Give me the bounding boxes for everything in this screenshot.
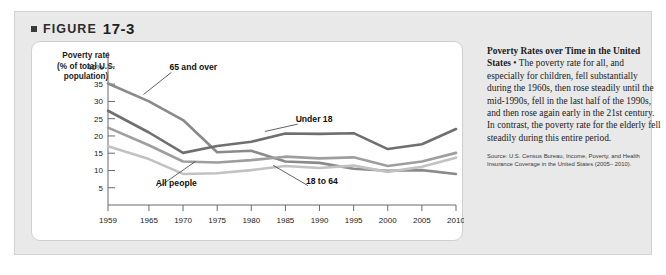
series-leader-18-to-64 [273,165,308,185]
x-tick-label: 1980 [242,216,260,225]
x-tick-label: 1985 [277,216,295,225]
x-tick-label: 2000 [379,216,397,225]
x-tick-label: 1970 [174,216,192,225]
series-label-65-and-over: 65 and over [169,62,217,72]
x-tick-label: 2005 [413,216,431,225]
y-tick-label: 15 [94,149,103,158]
series-label-all-people: All people [156,178,197,188]
figure-container: FIGURE 17-3 Poverty rate (% of total U.S… [14,11,652,255]
caption-body: The poverty rate for all, and especially… [487,58,661,142]
x-tick-label: 1995 [345,216,363,225]
square-bullet-icon [31,26,37,32]
series-label-under-18: Under 18 [296,114,333,124]
figure-label: FIGURE [43,22,97,36]
caption-panel: Poverty Rates over Time in the United St… [487,45,663,168]
caption-separator: • [511,58,519,68]
series-line-under-18 [108,111,456,153]
x-tick-label: 1965 [140,216,158,225]
y-tick-label: 5 [99,184,104,193]
caption-text: Poverty Rates over Time in the United St… [487,45,663,144]
chart-card: Poverty rate (% of total U.S. population… [31,41,463,241]
figure-number: 17-3 [103,20,135,37]
y-tick-label: 10 [94,166,103,175]
x-tick-label: 1990 [311,216,329,225]
caption-source: Source: U.S. Census Bureau, Income, Pove… [487,153,663,168]
x-tick-label: 1959 [99,216,117,225]
y-tick-label: 25 [94,115,103,124]
series-line-65-and-over [108,83,456,173]
y-tick-label: 20 [94,132,103,141]
series-label-18-to-64: 18 to 64 [306,176,338,186]
poverty-rate-line-chart: 510152025303540%195919651970197519801985… [32,42,464,242]
y-tick-label: 35 [94,80,103,89]
y-tick-label: 40% [87,63,103,72]
y-tick-label: 30 [94,97,103,106]
x-tick-label: 1975 [208,216,226,225]
figure-header: FIGURE 17-3 [31,20,135,37]
x-tick-label: 2010 [447,216,464,225]
series-leader-under-18 [265,124,298,131]
series-leader-65-and-over [143,72,171,94]
